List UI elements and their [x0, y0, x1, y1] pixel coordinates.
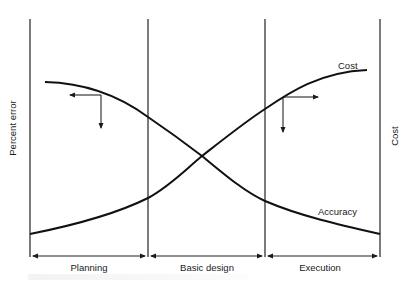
percent-error-axis-label: Percent error: [8, 100, 18, 155]
cost-accuracy-diagram: Percent error Cost Cost Accuracy Plannin…: [0, 0, 409, 285]
accuracy-curve-label: Accuracy: [318, 207, 357, 217]
phase-label-basic-design: Basic design: [180, 263, 234, 273]
cost-curve-label: Cost: [338, 61, 358, 71]
diagram-graphics: [0, 0, 409, 285]
cost-axis-label: Cost: [390, 126, 400, 146]
phase-label-planning: Planning: [71, 263, 108, 273]
faded-caption: [28, 274, 248, 280]
phase-label-execution: Execution: [299, 263, 341, 273]
